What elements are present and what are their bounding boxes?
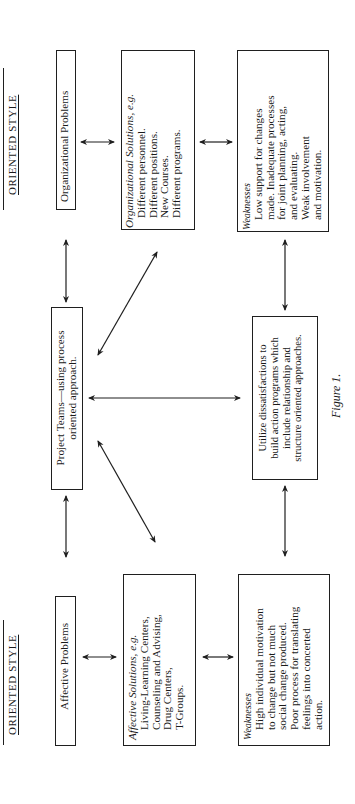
connector-arrows: [0, 0, 355, 804]
arrow-orgsolutions-projectteams: [98, 252, 157, 355]
arrow-projectteams-affectivesolutions: [98, 441, 155, 542]
